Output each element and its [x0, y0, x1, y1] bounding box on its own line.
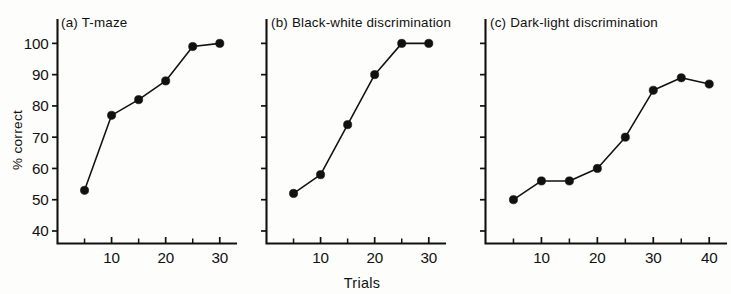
panel-a-data-points: [80, 39, 223, 194]
panel-a-axis-lines: [58, 20, 237, 244]
figure-container: (a) T-maze 405060708090100 102030 % corr…: [0, 0, 731, 294]
data-point-marker: [162, 77, 170, 85]
x-tick-label: 40: [701, 249, 718, 266]
data-point-marker: [80, 186, 88, 194]
panel-b-x-tick-labels: 102030: [312, 249, 437, 266]
x-tick-label: 20: [589, 249, 606, 266]
y-axis-label: % correct: [10, 110, 25, 170]
data-point-marker: [649, 86, 657, 94]
data-point-marker: [705, 80, 713, 88]
panel-c-x-tick-labels: 10203040: [533, 249, 717, 266]
data-point-marker: [565, 177, 573, 185]
data-point-marker: [371, 71, 379, 79]
y-tick-label: 40: [32, 222, 49, 239]
x-tick-label: 30: [212, 249, 229, 266]
data-point-marker: [289, 189, 297, 197]
data-point-marker: [216, 39, 224, 47]
panel-b-data-points: [289, 39, 432, 197]
data-point-marker: [316, 171, 324, 179]
x-tick-label: 30: [645, 249, 662, 266]
panel-b-series-line: [294, 43, 429, 193]
y-tick-label: 80: [32, 97, 49, 114]
data-point-marker: [107, 111, 115, 119]
panel-b-axes: [267, 20, 446, 244]
data-point-marker: [621, 133, 629, 141]
panel-c-data-points: [509, 74, 713, 204]
data-point-marker: [509, 196, 517, 204]
x-tick-label: 10: [103, 249, 120, 266]
y-tick-label: 50: [32, 191, 49, 208]
data-point-marker: [677, 74, 685, 82]
y-tick-label: 60: [32, 160, 49, 177]
learning-curves-figure: (a) T-maze 405060708090100 102030 % corr…: [0, 0, 731, 294]
x-axis-label: Trials: [344, 275, 380, 291]
y-tick-label: 90: [32, 66, 49, 83]
x-tick-label: 20: [366, 249, 383, 266]
data-point-marker: [189, 42, 197, 50]
panel-a-x-tick-labels: 102030: [103, 249, 228, 266]
panel-b-title: (b) Black-white discrimination: [271, 15, 451, 30]
panel-a: (a) T-maze 405060708090100 102030 % corr…: [10, 15, 236, 266]
panel-c-title: (c) Dark-light discrimination: [490, 15, 658, 30]
panel-b: (b) Black-white discrimination 102030 Tr…: [261, 15, 451, 291]
panel-b-axis-lines: [267, 20, 446, 244]
data-point-marker: [398, 39, 406, 47]
panel-c-axes: [486, 20, 727, 244]
panel-a-series-line: [85, 43, 220, 190]
y-tick-label: 100: [24, 35, 49, 52]
x-tick-label: 10: [533, 249, 550, 266]
x-tick-label: 20: [157, 249, 174, 266]
data-point-marker: [344, 121, 352, 129]
x-tick-label: 10: [312, 249, 329, 266]
panel-a-y-tick-labels: 405060708090100: [24, 35, 49, 240]
y-tick-label: 70: [32, 129, 49, 146]
data-point-marker: [593, 164, 601, 172]
x-tick-label: 30: [421, 249, 438, 266]
panel-c: (c) Dark-light discrimination 10203040: [480, 15, 726, 266]
data-point-marker: [425, 39, 433, 47]
data-point-marker: [135, 96, 143, 104]
panel-a-axes: [58, 20, 237, 244]
panel-c-axis-lines: [486, 20, 727, 244]
data-point-marker: [537, 177, 545, 185]
panel-a-title: (a) T-maze: [61, 15, 128, 30]
